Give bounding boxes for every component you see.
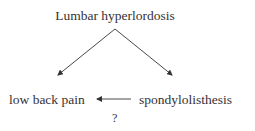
arrow-top-to-left (58, 29, 115, 75)
arrow-top-to-right (115, 29, 172, 75)
diagram-arrows (0, 0, 255, 131)
